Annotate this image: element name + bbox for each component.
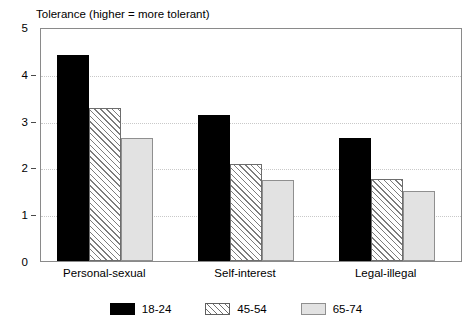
y-tick-label: 0 — [22, 257, 28, 268]
legend-item[interactable]: 45-54 — [205, 303, 266, 315]
bar — [230, 164, 262, 261]
bar — [371, 179, 403, 261]
bar — [57, 55, 89, 261]
legend-swatch-icon — [301, 303, 326, 315]
legend-item[interactable]: 65-74 — [301, 303, 362, 315]
bar — [339, 138, 371, 261]
y-tick-label: 2 — [22, 163, 28, 174]
legend-label: 18-24 — [142, 303, 171, 315]
chart-legend: 18-2445-5465-74 — [0, 298, 472, 320]
y-tick-label: 4 — [22, 69, 28, 80]
y-tick-mark — [31, 168, 36, 169]
y-tick-mark — [31, 75, 36, 76]
y-tick-label: 1 — [22, 210, 28, 221]
bar — [403, 191, 435, 261]
legend-label: 65-74 — [333, 303, 362, 315]
y-tick-label: 5 — [22, 23, 28, 34]
bar-chart: Tolerance (higher = more tolerant) 01234… — [0, 0, 472, 331]
y-axis: 012345 — [0, 28, 36, 262]
bar — [89, 108, 121, 261]
y-tick-mark — [31, 215, 36, 216]
legend-swatch-icon — [110, 303, 135, 315]
legend-label: 45-54 — [237, 303, 266, 315]
x-category-label: Legal-illegal — [355, 266, 416, 280]
bar — [198, 115, 230, 261]
bar — [262, 180, 294, 261]
gridline — [41, 76, 461, 77]
chart-title: Tolerance (higher = more tolerant) — [36, 7, 210, 21]
x-category-label: Personal-sexual — [63, 266, 145, 280]
y-tick-label: 3 — [22, 116, 28, 127]
x-axis: Personal-sexualSelf-interestLegal-illega… — [40, 266, 462, 284]
y-tick-mark — [31, 122, 36, 123]
legend-swatch-icon — [205, 303, 230, 315]
legend-item[interactable]: 18-24 — [110, 303, 171, 315]
plot-area — [40, 28, 462, 262]
bar — [121, 138, 153, 261]
x-category-label: Self-interest — [214, 266, 275, 280]
